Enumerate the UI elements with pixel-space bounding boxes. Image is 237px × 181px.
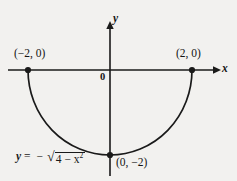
radicand: 4 − x2 — [55, 152, 86, 165]
y-axis-label: y — [113, 13, 118, 25]
point-right-intercept — [189, 67, 195, 73]
equation-lhs: y — [16, 151, 21, 163]
equation-equals-sign: = — [24, 151, 31, 163]
origin-label: 0 — [100, 72, 105, 83]
equation-minus-sign: − — [37, 151, 44, 163]
point-bottom-vertex — [107, 152, 113, 158]
radical-sign-icon: √ — [47, 151, 55, 165]
x-axis-label: x — [222, 63, 228, 75]
x-axis-arrowhead — [213, 66, 221, 74]
point-left-intercept — [25, 67, 31, 73]
radical-expression: √ 4 − x2 — [47, 151, 85, 165]
radicand-base: 4 − x — [56, 153, 80, 165]
radicand-exponent: 2 — [80, 151, 84, 160]
point-label-right-intercept: (2, 0) — [176, 48, 201, 60]
point-label-bottom-vertex: (0, −2) — [116, 157, 147, 169]
semicircle-figure: (−2, 0) (2, 0) (0, −2) 0 x y y = − √ 4 −… — [0, 0, 237, 181]
equation-annotation: y = − √ 4 − x2 — [16, 151, 85, 165]
point-label-left-intercept: (−2, 0) — [14, 48, 45, 60]
